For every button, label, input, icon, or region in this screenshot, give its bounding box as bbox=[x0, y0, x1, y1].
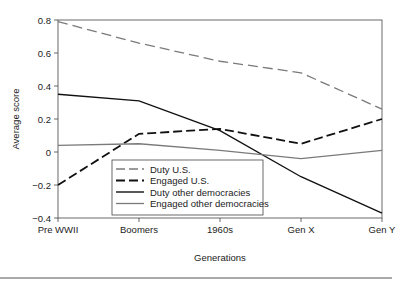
series-line-duty-u-s bbox=[58, 22, 382, 109]
line-chart: 0.80.60.40.20−0.2−0.4 Pre WWIIBoomers196… bbox=[0, 0, 409, 282]
x-axis-title: Generations bbox=[194, 252, 246, 263]
x-tick-label: Boomers bbox=[120, 224, 158, 235]
x-axis: Pre WWIIBoomers1960sGen XGen Y bbox=[38, 218, 396, 235]
y-tick-label: 0 bbox=[46, 147, 51, 158]
x-tick-label: Gen Y bbox=[369, 224, 396, 235]
y-tick-label: 0.6 bbox=[38, 48, 51, 59]
legend-label: Engaged U.S. bbox=[150, 175, 209, 186]
x-tick-label: Pre WWII bbox=[38, 224, 79, 235]
x-tick-label: 1960s bbox=[207, 224, 233, 235]
legend-label: Engaged other democracies bbox=[150, 198, 269, 209]
y-tick-label: −0.4 bbox=[32, 213, 51, 224]
y-tick-label: 0.4 bbox=[38, 81, 51, 92]
legend: Duty U.S.Engaged U.S.Duty other democrac… bbox=[112, 160, 269, 215]
y-axis: 0.80.60.40.20−0.2−0.4 bbox=[32, 15, 58, 224]
y-tick-label: −0.2 bbox=[32, 180, 51, 191]
legend-label: Duty U.S. bbox=[150, 164, 191, 175]
y-tick-label: 0.2 bbox=[38, 114, 51, 125]
y-axis-title: Average score bbox=[10, 88, 21, 149]
legend-label: Duty other democracies bbox=[150, 187, 251, 198]
x-tick-label: Gen X bbox=[288, 224, 316, 235]
series-line-engaged-other-democracies bbox=[58, 144, 382, 159]
y-tick-label: 0.8 bbox=[38, 15, 51, 26]
